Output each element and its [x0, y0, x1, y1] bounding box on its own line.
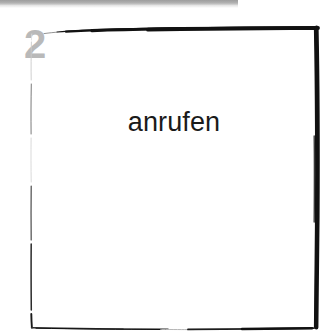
- screenshot-canvas: 2: [0, 0, 333, 331]
- sketch-box[interactable]: anrufen: [28, 26, 320, 331]
- top-divider-bar-shadow: [0, 5, 238, 8]
- sketch-box-outline: [28, 26, 320, 331]
